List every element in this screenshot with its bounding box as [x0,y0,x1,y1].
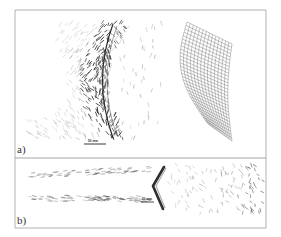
panel-a-mesh-grid [180,22,232,141]
panel-a-scale-label: 50 mm [88,139,98,143]
figure: 50 mm 50 mm a) b) [0,0,281,237]
panel-a-label: a) [17,143,26,155]
figure-canvas [0,0,281,237]
panel-b-velocity-vectors [29,163,264,215]
panel-b-chevron-front [153,167,166,209]
panel-a-velocity-vectors [27,20,162,140]
figure-frame [15,10,266,228]
panel-b-scale-label: 50 mm [142,197,152,201]
panel-b-label: b) [17,214,26,226]
